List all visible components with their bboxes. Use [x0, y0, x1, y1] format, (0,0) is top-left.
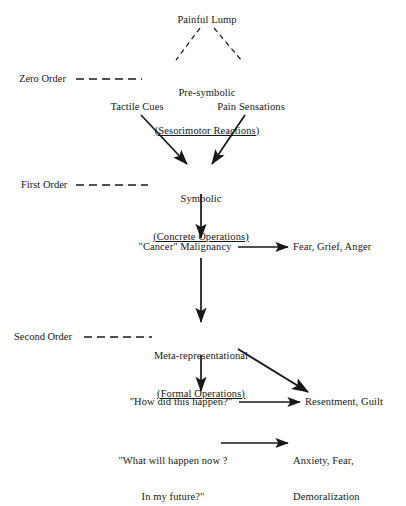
node-what-will-happen-line2: In my future?" — [118, 491, 227, 503]
order-label-second-order: Second Order — [14, 331, 72, 344]
node-fear-grief-anger: Fear, Grief, Anger — [293, 241, 371, 254]
node-resentment-guilt: Resentment, Guilt — [305, 396, 383, 409]
node-pre-symbolic-line1: Pre-symbolic — [155, 87, 260, 100]
node-meta-line1: Meta-representational — [154, 350, 248, 363]
node-how-did-this-happen: "How did this happen?" — [130, 396, 233, 409]
node-anxiety-fear-demoralization: Anxiety, Fear, Demoralization — [293, 431, 360, 506]
node-what-will-happen: "What will happen now ? In my future?" — [118, 431, 227, 506]
connector-painful-lump-to-presymbolic-right — [214, 28, 242, 61]
node-symbolic-line1: Symbolic — [153, 193, 249, 206]
node-pre-symbolic-line2: (Sesorimotor Reactions) — [155, 125, 260, 138]
order-label-zero-order: Zero Order — [19, 73, 66, 86]
node-painful-lump: Painful Lump — [177, 14, 236, 27]
connector-meta-to-resentment-guilt — [238, 349, 308, 392]
node-pain-sensations: Pain Sensations — [217, 101, 285, 114]
connector-painful-lump-to-presymbolic-left — [176, 28, 200, 60]
node-cancer-malignancy: "Cancer" Malignancy — [139, 241, 232, 254]
node-what-will-happen-line1: "What will happen now ? — [118, 455, 227, 467]
node-anxiety-line2: Demoralization — [293, 491, 360, 503]
node-tactile-cues: Tactile Cues — [110, 101, 163, 114]
node-anxiety-line1: Anxiety, Fear, — [293, 455, 360, 467]
order-label-first-order: First Order — [21, 179, 67, 192]
